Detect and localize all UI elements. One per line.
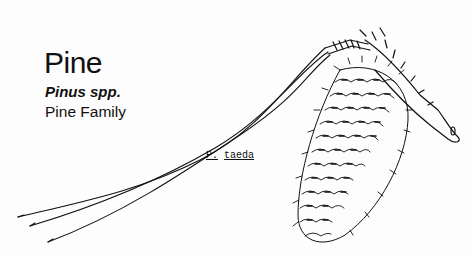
caption-genus: P. [206,150,218,161]
pine-needles-icon [18,48,330,242]
pine-cone-icon [293,56,412,242]
species-caption: P. taeda [206,151,254,161]
caption-species: taeda [224,150,254,161]
pine-cone-drawing [0,0,472,255]
branch-icon [325,28,459,142]
pine-illustration-card: Pine Pinus spp. Pine Family [0,0,472,255]
